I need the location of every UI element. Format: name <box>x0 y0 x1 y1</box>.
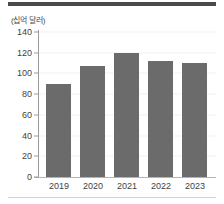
bar[interactable] <box>80 66 105 177</box>
y-tick-label-text: 120 <box>0 48 38 58</box>
y-tick-label-text: 0 <box>0 172 38 182</box>
y-tick-label: 0 <box>0 172 38 182</box>
bar-slot <box>178 32 212 177</box>
bar[interactable] <box>148 61 173 177</box>
y-tick-label-text: 20 <box>0 151 38 161</box>
x-tick-label: 2021 <box>110 181 144 191</box>
bar-slot <box>110 32 144 177</box>
bar-slot <box>144 32 178 177</box>
y-tick-label-text: 60 <box>0 110 38 120</box>
bar-series <box>38 32 216 177</box>
y-tick-label: 120 <box>0 48 38 58</box>
bottom-divider-rule <box>8 197 216 198</box>
x-axis-line <box>34 177 216 178</box>
bar[interactable] <box>114 53 139 177</box>
y-tick-label: 60 <box>0 110 38 120</box>
y-tick-label-text: 100 <box>0 68 38 78</box>
top-divider-rule <box>8 2 216 6</box>
x-tick-label: 2023 <box>178 181 212 191</box>
y-tick-label: 20 <box>0 151 38 161</box>
x-tick-label: 2022 <box>144 181 178 191</box>
y-tick-label-text: 80 <box>0 89 38 99</box>
y-tick-label: 40 <box>0 131 38 141</box>
x-tick-label: 2019 <box>42 181 76 191</box>
x-tick-label: 2020 <box>76 181 110 191</box>
y-axis-unit-label: (십억 달러) <box>11 14 45 25</box>
y-tick-label: 80 <box>0 89 38 99</box>
bar-slot <box>76 32 110 177</box>
bar[interactable] <box>182 63 207 177</box>
chart-figure: (십억 달러) 020406080100120140 2019202020212… <box>0 0 224 204</box>
y-tick-label: 100 <box>0 68 38 78</box>
y-tick-label: 140 <box>0 27 38 37</box>
bar[interactable] <box>46 84 71 177</box>
y-tick-label-text: 40 <box>0 131 38 141</box>
bar-slot <box>42 32 76 177</box>
y-tick-label-text: 140 <box>0 27 38 37</box>
